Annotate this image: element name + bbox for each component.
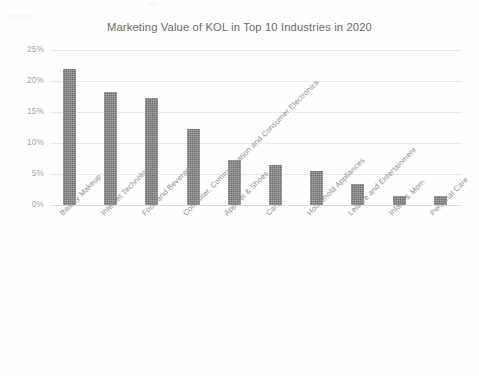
y-axis-tick-label: 25% [0, 45, 44, 54]
gridline [50, 50, 462, 51]
scan-artifact [148, 2, 158, 6]
y-axis-tick-label: 10% [0, 138, 44, 147]
bar[interactable] [145, 98, 158, 205]
y-axis: 0%5%10%15%20%25% [0, 0, 46, 376]
y-axis-tick-label: 20% [0, 76, 44, 85]
chart-title: Marketing Value of KOL in Top 10 Industr… [0, 21, 479, 33]
bar[interactable] [63, 69, 76, 205]
gridline [50, 81, 462, 82]
y-axis-tick-label: 15% [0, 107, 44, 116]
y-axis-tick-label: 0% [0, 200, 44, 209]
y-axis-tick-label: 5% [0, 169, 44, 178]
bar[interactable] [104, 92, 117, 205]
bar-chart: Marketing Value of KOL in Top 10 Industr… [0, 0, 479, 376]
